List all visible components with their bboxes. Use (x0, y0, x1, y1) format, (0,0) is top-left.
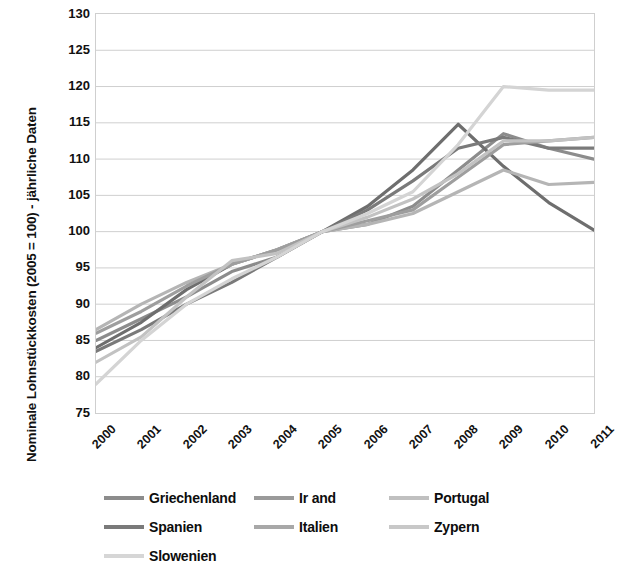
y-tick-label: 80 (50, 369, 90, 382)
x-axis-tick-labels: 2000200120022003200420052006200720082009… (95, 414, 595, 474)
legend-row: Slowenien (104, 542, 584, 570)
legend-swatch-icon (104, 554, 144, 558)
y-tick-label: 85 (50, 333, 90, 346)
y-tick-label: 130 (50, 7, 90, 20)
x-tick-label: 2003 (212, 422, 254, 464)
chart-legend: GriechenlandIr andPortugalSpanienItalien… (104, 484, 584, 580)
y-tick-label: 110 (50, 152, 90, 165)
legend-item-slowenien[interactable]: Slowenien (104, 542, 216, 570)
x-tick-label: 2006 (348, 422, 390, 464)
y-axis-title: Nominale Lohnstückkosten (2005 = 100) - … (24, 12, 39, 462)
legend-swatch-icon (389, 525, 429, 529)
x-tick-label: 2004 (258, 422, 300, 464)
x-tick-label: 2010 (529, 422, 571, 464)
y-tick-label: 75 (50, 406, 90, 419)
x-tick-label: 2005 (303, 422, 345, 464)
legend-swatch-icon (389, 496, 429, 500)
legend-row: GriechenlandIr andPortugal (104, 484, 584, 512)
legend-item-ir-and[interactable]: Ir and (254, 484, 336, 512)
y-tick-label: 90 (50, 297, 90, 310)
gridlines (96, 50, 594, 376)
series-line-spanien (96, 137, 594, 351)
legend-label: Portugal (434, 490, 489, 506)
x-tick-label: 2002 (167, 422, 209, 464)
legend-label: Ir and (299, 490, 336, 506)
y-tick-label: 125 (50, 43, 90, 56)
x-tick-label: 2009 (484, 422, 526, 464)
series-lines (96, 87, 594, 384)
legend-swatch-icon (104, 496, 144, 500)
legend-item-zypern[interactable]: Zypern (389, 513, 479, 541)
legend-item-portugal[interactable]: Portugal (389, 484, 489, 512)
x-tick-label: 2011 (574, 422, 616, 464)
x-tick-label: 2001 (122, 422, 164, 464)
legend-swatch-icon (104, 525, 144, 529)
y-axis-title-container: Nominale Lohnstückkosten (2005 = 100) - … (0, 0, 30, 470)
legend-label: Slowenien (149, 548, 216, 564)
x-tick-label: 2007 (393, 422, 435, 464)
legend-swatch-icon (254, 525, 294, 529)
legend-label: Zypern (434, 519, 479, 535)
x-tick-label: 2008 (439, 422, 481, 464)
y-tick-label: 95 (50, 260, 90, 273)
legend-item-griechenland[interactable]: Griechenland (104, 484, 236, 512)
legend-item-italien[interactable]: Italien (254, 513, 338, 541)
line-chart-svg (96, 14, 594, 413)
legend-label: Italien (299, 519, 338, 535)
plot-area (95, 13, 595, 414)
legend-label: Griechenland (149, 490, 236, 506)
legend-label: Spanien (149, 519, 202, 535)
series-line-slowenien (96, 87, 594, 384)
y-tick-label: 100 (50, 224, 90, 237)
y-tick-label: 115 (50, 115, 90, 128)
y-axis-tick-labels: 1301251201151101051009590858075 (44, 0, 90, 430)
y-tick-label: 120 (50, 79, 90, 92)
legend-swatch-icon (254, 496, 294, 500)
y-tick-label: 105 (50, 188, 90, 201)
series-line-zypern (96, 137, 594, 362)
legend-item-spanien[interactable]: Spanien (104, 513, 202, 541)
legend-row: SpanienItalienZypern (104, 513, 584, 541)
